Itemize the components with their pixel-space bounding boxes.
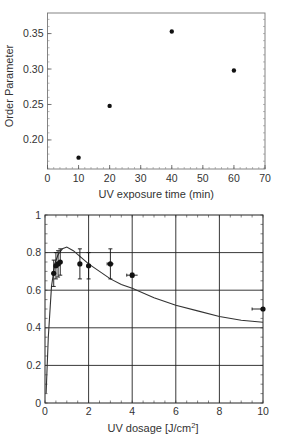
y-tick-label: 0.4: [26, 321, 41, 333]
figure: 0.200.250.300.35010203040506070UV exposu…: [0, 0, 282, 446]
x-axis-label: UV exposure time (min): [98, 188, 214, 200]
data-point: [130, 273, 135, 278]
y-tick-label: 0.6: [26, 284, 41, 296]
data-point: [108, 261, 113, 266]
data-point: [86, 263, 91, 268]
x-tick-label: 4: [129, 405, 135, 417]
data-point: [170, 29, 174, 33]
x-tick-label: 8: [216, 405, 222, 417]
x-tick-label: 2: [86, 405, 92, 417]
plot-frame: [48, 13, 266, 169]
y-tick-label: 0: [35, 397, 41, 409]
x-tick-label: 40: [166, 172, 178, 184]
x-tick-label: 10: [73, 172, 85, 184]
x-axis-label: UV dosage [J/cm2]: [108, 421, 199, 434]
y-tick-label: 0.30: [23, 63, 44, 75]
x-tick-label: 10: [257, 405, 269, 417]
y-tick-label: 0.8: [26, 246, 41, 258]
x-tick-label: 0: [45, 172, 51, 184]
y-tick-label: 0.20: [23, 133, 44, 145]
y-tick-label: 0.2: [26, 359, 41, 371]
data-point: [232, 68, 236, 72]
x-tick-label: 20: [104, 172, 116, 184]
plot-frame: [45, 215, 263, 403]
x-tick-label: 30: [135, 172, 147, 184]
x-tick-label: 60: [228, 172, 240, 184]
data-point: [77, 261, 82, 266]
uv-dosage-chart: 00.20.40.60.810246810UV dosage [J/cm2]: [26, 209, 269, 435]
x-tick-label: 70: [259, 172, 271, 184]
y-axis-label: Order Parameter: [3, 44, 15, 127]
y-tick-label: 0.25: [23, 98, 44, 110]
y-tick-label: 0.35: [23, 27, 44, 39]
x-tick-label: 6: [173, 405, 179, 417]
order-parameter-chart: 0.200.250.300.35010203040506070UV exposu…: [3, 13, 271, 200]
y-tick-label: 1: [35, 209, 41, 221]
x-tick-label: 0: [42, 405, 48, 417]
data-point: [76, 155, 80, 159]
data-point: [107, 104, 111, 108]
data-point: [58, 259, 63, 264]
data-point: [260, 306, 265, 311]
x-tick-label: 50: [197, 172, 209, 184]
fit-curve: [46, 247, 263, 394]
